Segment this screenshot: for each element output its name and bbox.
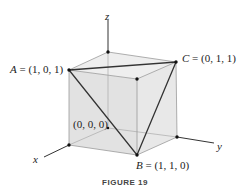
y-axis — [177, 137, 214, 143]
point-a-label: A = (1, 0, 1) — [10, 64, 63, 75]
point-c-coords: = (0, 1, 1) — [192, 52, 236, 64]
y-axis-label: y — [217, 141, 222, 152]
point-a-coords: = (1, 0, 1) — [19, 63, 63, 75]
point-b-coords: = (1, 1, 0) — [145, 159, 189, 171]
figure-caption: FIGURE 19 — [0, 178, 250, 187]
origin-label: (0, 0, 0) — [73, 119, 108, 130]
point-b-label: B = (1, 1, 0) — [136, 160, 189, 171]
point-b-name: B — [136, 159, 143, 171]
z-axis-label: z — [105, 11, 109, 22]
point-a-name: A — [10, 63, 17, 75]
x-axis-label: x — [33, 154, 38, 165]
point-c-label: C = (0, 1, 1) — [182, 53, 236, 64]
x-axis — [44, 145, 69, 157]
point-c-name: C — [182, 52, 189, 64]
